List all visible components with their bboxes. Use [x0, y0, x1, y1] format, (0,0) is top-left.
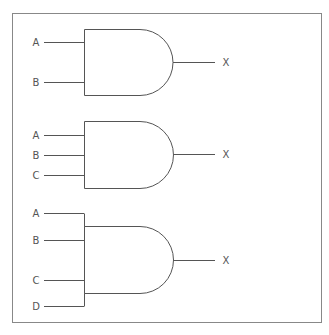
input-label-d: D: [32, 301, 40, 312]
input-label-a: A: [33, 130, 40, 141]
logic-gates-diagram: ABXABCXABCDX: [0, 0, 329, 335]
input-label-c: C: [33, 275, 40, 286]
and-gate-1: ABX: [33, 30, 230, 96]
and-gate-body: [85, 122, 174, 189]
input-label-b: B: [33, 150, 40, 161]
output-label-x: X: [223, 255, 230, 266]
input-label-c: C: [33, 170, 40, 181]
and-gate-3: ABCDX: [32, 208, 229, 312]
and-gate-body: [85, 227, 174, 294]
input-label-a: A: [33, 208, 40, 219]
output-label-x: X: [223, 149, 230, 160]
input-label-b: B: [33, 77, 40, 88]
input-label-a: A: [33, 37, 40, 48]
and-gate-2: ABCX: [33, 122, 230, 189]
and-gate-body: [85, 30, 174, 96]
output-label-x: X: [223, 57, 230, 68]
input-label-b: B: [33, 235, 40, 246]
